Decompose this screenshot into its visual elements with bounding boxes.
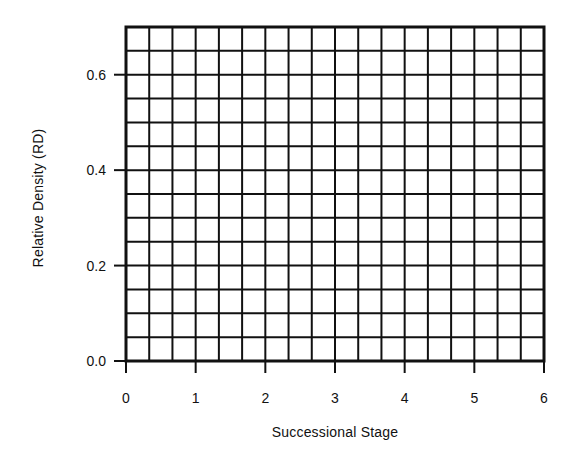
x-axis-title: Successional Stage xyxy=(272,424,399,440)
x-tick-label: 0 xyxy=(122,390,130,406)
y-axis-ticks: 0.00.20.40.6 xyxy=(87,67,126,369)
x-tick-label: 3 xyxy=(331,390,339,406)
y-tick-label: 0.0 xyxy=(87,353,107,369)
plot-grid xyxy=(126,27,544,361)
x-tick-label: 1 xyxy=(192,390,200,406)
chart: 0.00.20.40.6 0123456 Successional Stage … xyxy=(0,0,577,463)
x-axis-ticks: 0123456 xyxy=(122,361,548,406)
x-tick-label: 4 xyxy=(401,390,409,406)
x-tick-label: 2 xyxy=(261,390,269,406)
y-tick-label: 0.4 xyxy=(87,162,107,178)
y-tick-label: 0.6 xyxy=(87,67,107,83)
x-tick-label: 5 xyxy=(470,390,478,406)
y-tick-label: 0.2 xyxy=(87,258,107,274)
x-tick-label: 6 xyxy=(540,390,548,406)
y-axis-title: Relative Density (RD) xyxy=(30,129,46,268)
